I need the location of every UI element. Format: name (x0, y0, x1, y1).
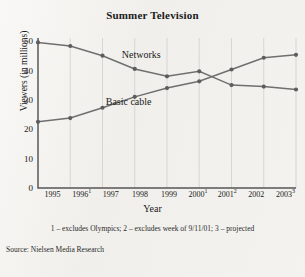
x-tick-label: 20012 (213, 190, 242, 199)
series-label-basic-cable: Basic cable (106, 96, 152, 107)
data-point (165, 74, 169, 78)
data-point (262, 56, 266, 60)
y-axis-ticks: 01020304050 (24, 36, 34, 193)
data-point (36, 120, 40, 124)
x-tick-footnote-marker: 2 (234, 188, 237, 194)
data-point (229, 67, 233, 71)
y-tick-label: 20 (24, 124, 34, 134)
plot-area: 01020304050 NetworksBasic cable (0, 28, 305, 198)
y-tick-label: 40 (24, 66, 34, 76)
x-axis-title: Year (0, 203, 305, 214)
x-tick-footnote-marker: 3 (292, 188, 295, 194)
chart-footnote: 1 – excludes Olympics; 2 – excludes week… (0, 224, 305, 233)
data-point (133, 67, 137, 71)
chart-figure: Summer Television Viewers (in millions) … (0, 0, 305, 277)
y-tick-label: 10 (24, 154, 34, 164)
chart-title: Summer Television (0, 9, 305, 21)
data-point (68, 116, 72, 120)
x-tick-label: 1998 (125, 190, 154, 199)
y-tick-label: 30 (24, 95, 34, 105)
data-point (294, 53, 298, 57)
series-label-networks: Networks (122, 49, 161, 60)
data-point (100, 106, 104, 110)
data-point (36, 40, 40, 44)
x-tick-label: 20001 (184, 190, 213, 199)
data-point (262, 84, 266, 88)
x-tick-label: 20033 (271, 190, 300, 199)
series-inline-labels: NetworksBasic cable (106, 49, 161, 107)
data-point (294, 87, 298, 91)
data-point (100, 54, 104, 58)
x-tick-label: 2002 (242, 190, 271, 199)
y-tick-label: 50 (24, 36, 34, 46)
x-tick-footnote-marker: 1 (205, 188, 208, 194)
data-point (68, 44, 72, 48)
x-tick-label: 19961 (67, 190, 96, 199)
data-point (229, 83, 233, 87)
line-chart-svg: 01020304050 NetworksBasic cable (0, 28, 305, 198)
y-tick-label: 0 (29, 183, 34, 193)
source-note: Source: Nielsen Media Research (6, 245, 104, 254)
x-tick-footnote-marker: 1 (88, 188, 91, 194)
data-point (197, 69, 201, 73)
data-point (197, 79, 201, 83)
x-axis-tick-labels: 1995199611997199819992000120012200220033 (38, 190, 300, 199)
x-tick-label: 1995 (38, 190, 67, 199)
x-tick-label: 1997 (96, 190, 125, 199)
data-point (165, 86, 169, 90)
x-tick-label: 1999 (154, 190, 183, 199)
